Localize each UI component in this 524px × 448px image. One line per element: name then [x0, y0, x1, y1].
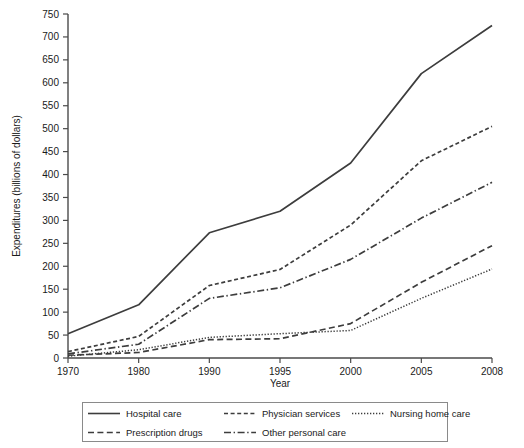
legend-swatch-dash-dot-icon: [223, 428, 257, 437]
y-axis-tick-label: 400: [42, 169, 59, 180]
line-chart-svg: 0501001502002503003504004505005506006507…: [0, 0, 524, 392]
legend-entry-nursing-home-care: Nursing home care: [351, 404, 471, 423]
series-line-prescription-drugs: [68, 246, 492, 356]
data-series-group: [68, 25, 492, 356]
y-axis-tick-label: 600: [42, 77, 59, 88]
legend-entry-other-personal-care: Other personal care: [223, 423, 351, 442]
x-axis-tick-marks: [68, 358, 492, 363]
legend-swatch-dashed-fine-icon: [223, 409, 257, 418]
x-axis-tick-label: 1990: [198, 366, 221, 377]
x-axis-tick-label: 1970: [57, 366, 80, 377]
x-axis-tick-label: 1980: [128, 366, 151, 377]
legend-entry-prescription-drugs: Prescription drugs: [87, 423, 223, 442]
y-axis-tick-label: 100: [42, 307, 59, 318]
y-axis-tick-labels: 0501001502002503003504004505005506006507…: [42, 9, 59, 364]
plot-area: 0501001502002503003504004505005506006507…: [0, 0, 524, 392]
x-axis-tick-label: 2005: [410, 366, 433, 377]
chart-legend: Hospital care Physician services Nursing…: [82, 402, 448, 442]
legend-entry-physician-services: Physician services: [223, 404, 351, 423]
legend-label-physician-services: Physician services: [262, 409, 340, 419]
y-axis-tick-label: 750: [42, 9, 59, 20]
y-axis-tick-label: 50: [48, 330, 60, 341]
legend-swatch-dotted-icon: [351, 409, 385, 418]
series-line-nursing-home-care: [68, 269, 492, 356]
y-axis-tick-label: 450: [42, 146, 59, 157]
x-axis-title: Year: [270, 378, 291, 389]
y-axis-tick-label: 250: [42, 238, 59, 249]
y-axis-tick-label: 650: [42, 54, 59, 65]
y-axis-tick-label: 300: [42, 215, 59, 226]
y-axis-tick-label: 500: [42, 123, 59, 134]
x-axis-tick-label: 2008: [481, 366, 504, 377]
x-axis-tick-label: 1995: [269, 366, 292, 377]
y-axis-tick-label: 350: [42, 192, 59, 203]
legend-grid: Hospital care Physician services Nursing…: [83, 403, 447, 442]
legend-label-nursing-home-care: Nursing home care: [390, 409, 470, 419]
series-line-physician-services: [68, 126, 492, 351]
series-line-other-personal-care: [68, 182, 492, 354]
legend-label-hospital-care: Hospital care: [126, 409, 181, 419]
y-axis-tick-marks: [63, 14, 68, 358]
legend-swatch-dashed-long-icon: [87, 428, 121, 437]
x-axis-tick-label: 2000: [340, 366, 363, 377]
y-axis-tick-label: 700: [42, 31, 59, 42]
series-line-hospital-care: [68, 25, 492, 333]
y-axis-tick-label: 550: [42, 100, 59, 111]
y-axis-tick-label: 200: [42, 261, 59, 272]
y-axis-title: Expenditures (billions of dollars): [11, 115, 22, 257]
chart-figure: 0501001502002503003504004505005506006507…: [0, 0, 524, 448]
y-axis-tick-label: 150: [42, 284, 59, 295]
legend-label-other-personal-care: Other personal care: [262, 428, 346, 438]
legend-swatch-solid-icon: [87, 409, 121, 418]
x-axis-tick-labels: 1970198019901995200020052008: [57, 366, 504, 377]
legend-entry-hospital-care: Hospital care: [87, 404, 223, 423]
legend-label-prescription-drugs: Prescription drugs: [126, 428, 203, 438]
y-axis-tick-label: 0: [53, 353, 59, 364]
